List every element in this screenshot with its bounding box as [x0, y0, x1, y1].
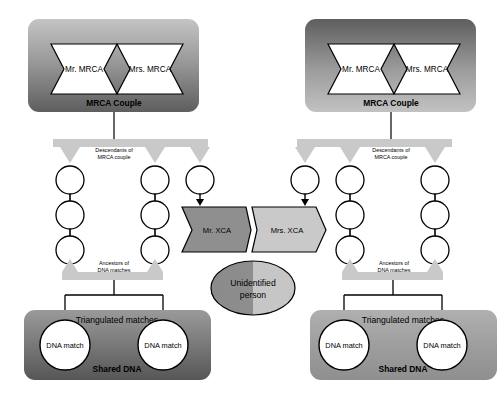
mr-xca-group: Mr. XCA: [182, 207, 251, 252]
right-dna-match-label-2: DNA match: [423, 341, 460, 350]
right-shared-dna-group: Triangulated matches DNA match DNA match…: [310, 310, 497, 380]
right-mrca-group: Mr. MRCA Mrs. MRCA MRCA Couple: [305, 19, 476, 112]
right-descendants-label-line1: Descendants of: [372, 147, 410, 153]
right-descendants-bar: [297, 139, 452, 147]
right-ancestors-label-line2: DNA matches: [378, 267, 411, 273]
right-mrca-wife-label: Mrs. MRCA: [406, 65, 449, 74]
right-mrca-caption: MRCA Couple: [363, 98, 419, 108]
mr-xca-label: Mr. XCA: [203, 226, 232, 235]
diagram-canvas: Mr. MRCA Mrs. MRCA MRCA Couple Descendan…: [0, 0, 504, 398]
left-triangulated-matches-label: Triangulated matches: [76, 315, 158, 325]
left-dna-match-label-2: DNA match: [144, 341, 181, 350]
left-mrca-husband-label: Mr. MRCA: [65, 65, 103, 74]
left-descendants-label-line2: MRCA couple: [98, 154, 131, 160]
left-ancestors-label-line1: Ancestors of: [99, 260, 129, 266]
unidentified-person-shape: [211, 261, 295, 315]
left-mrca-group: Mr. MRCA Mrs. MRCA MRCA Couple: [28, 19, 199, 112]
left-descendants-bar: [53, 139, 208, 147]
left-shared-dna-group: Triangulated matches DNA match DNA match…: [24, 310, 211, 380]
left-mrca-wife-label: Mrs. MRCA: [129, 65, 172, 74]
right-mrca-husband-label: Mr. MRCA: [342, 65, 380, 74]
right-lineage-3: [421, 166, 449, 264]
right-dna-match-label-1: DNA match: [325, 341, 362, 350]
left-lineage-1: [56, 166, 84, 264]
genealogy-diagram: Mr. MRCA Mrs. MRCA MRCA Couple Descendan…: [0, 0, 504, 398]
mrs-xca-group: Mrs. XCA: [252, 207, 326, 252]
person-node: [336, 166, 364, 194]
right-descendants-label-line2: MRCA couple: [375, 154, 408, 160]
right-lineage-2: [336, 166, 364, 264]
left-dna-match-label-1: DNA match: [46, 341, 83, 350]
right-ancestors-label-line1: Ancestors of: [379, 260, 409, 266]
left-ancestors-bar: [62, 272, 163, 280]
left-shared-dna-caption: Shared DNA: [93, 364, 142, 374]
right-ancestors-bar: [342, 272, 443, 280]
left-mrca-caption: MRCA Couple: [86, 98, 142, 108]
person-node: [141, 166, 169, 194]
person-node: [291, 166, 319, 194]
person-node: [141, 201, 169, 229]
left-ancestors-label-line2: DNA matches: [98, 267, 131, 273]
unidentified-person-group: Unidentified person: [211, 261, 295, 315]
unidentified-person-label-line1: Unidentified: [230, 278, 276, 288]
person-node: [56, 201, 84, 229]
right-shared-dna-caption: Shared DNA: [379, 364, 428, 374]
left-descendants-label-line1: Descendants of: [95, 147, 133, 153]
person-node: [56, 166, 84, 194]
person-node: [186, 166, 214, 194]
person-node: [421, 201, 449, 229]
person-node: [421, 166, 449, 194]
unidentified-person-label-line2: person: [240, 290, 266, 300]
mrs-xca-label: Mrs. XCA: [271, 226, 304, 235]
person-node: [336, 201, 364, 229]
left-lineage-2: [141, 166, 169, 264]
